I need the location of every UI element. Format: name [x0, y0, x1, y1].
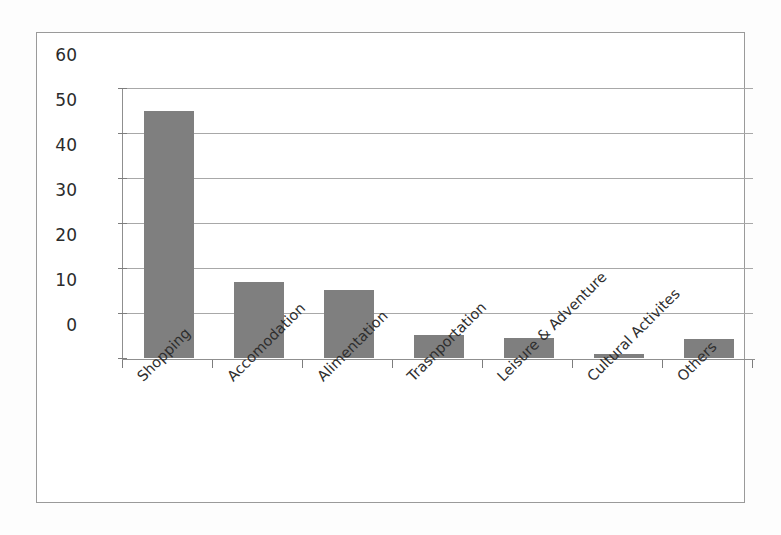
bar-slot: [594, 88, 644, 358]
y-axis-line: [122, 88, 123, 360]
bar-slot: [414, 88, 464, 358]
y-axis-tick-label: 50: [33, 90, 77, 110]
chart-frame: 60 50 40 30 20 10 0: [36, 32, 745, 503]
bar-slot: [234, 88, 284, 358]
y-axis-tick: [118, 223, 127, 224]
y-axis-tick: [118, 133, 127, 134]
x-axis-category-labels: Shopping Accomodation Alimentation Trasn…: [122, 365, 762, 515]
y-axis-tick-label: 40: [33, 135, 77, 155]
bar-slot: [324, 88, 374, 358]
bar-slot: [504, 88, 554, 358]
y-axis-tick: [118, 268, 127, 269]
y-axis-tick-label: 0: [33, 315, 77, 335]
bar-slot: [144, 88, 194, 358]
y-axis-tick-label: 20: [33, 225, 77, 245]
y-axis-tick-label: 30: [33, 180, 77, 200]
bar-slot: [684, 88, 734, 358]
y-axis-tick-label: 10: [33, 270, 77, 290]
y-axis-tick: [118, 178, 127, 179]
y-axis-tick-label: 60: [33, 45, 77, 65]
y-axis-tick: [118, 88, 127, 89]
y-axis-tick: [118, 313, 127, 314]
bar-shopping[interactable]: [144, 111, 194, 359]
